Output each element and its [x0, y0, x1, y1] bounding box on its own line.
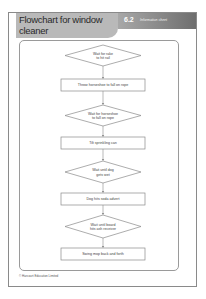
decision-label: Wait for horseshoe: [88, 112, 118, 116]
process-label: Throw horseshoe to fall on rope: [78, 83, 129, 87]
flowchart: Wait for raketo hit railThrow horseshoe …: [0, 0, 206, 299]
decision-label: Wait until board: [91, 223, 116, 227]
decision-label: Wait until dog: [92, 168, 114, 172]
process-label: Tilt sprinkling can: [89, 141, 117, 145]
decision-label: gets wet: [96, 173, 109, 177]
process-label: Swing mop back and forth: [82, 252, 124, 256]
decision-label: hits ash receiver: [90, 227, 117, 231]
copyright-footer: © Harcourt Education Limited: [19, 274, 58, 278]
process-label: Dog hits soda advert: [87, 197, 120, 201]
decision-label: Wait for rake: [93, 52, 113, 56]
decision-label: to fall on rope: [92, 116, 114, 120]
decision-label: to hit rail: [96, 56, 110, 60]
